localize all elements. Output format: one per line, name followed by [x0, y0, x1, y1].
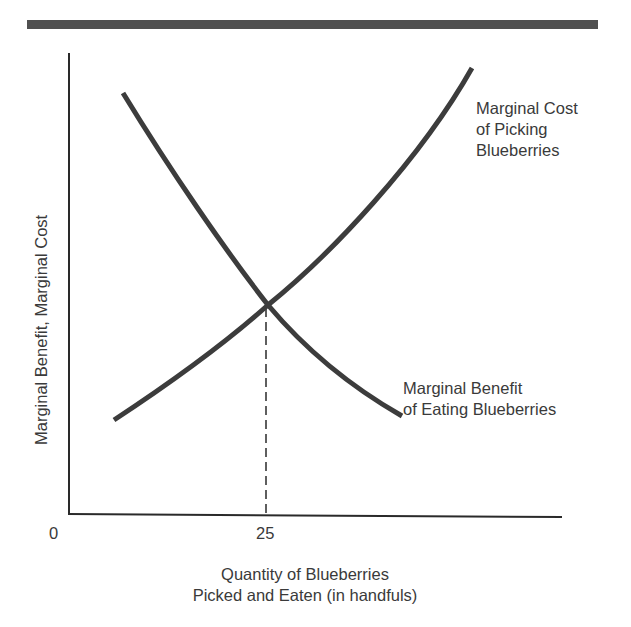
- marginal-cost-label: Marginal Cost of Picking Blueberries: [476, 98, 578, 161]
- marginal-benefit-curve: [123, 93, 402, 416]
- y-axis-label: Marginal Benefit, Marginal Cost: [32, 215, 51, 445]
- x-axis: [68, 514, 562, 517]
- x-tick-25: 25: [256, 524, 274, 543]
- x-axis-label-line1: Quantity of Blueberries: [150, 564, 460, 585]
- marginal-cost-curve: [114, 68, 472, 420]
- marginal-cost-label-line3: Blueberries: [476, 140, 578, 161]
- x-axis-label: Quantity of Blueberries Picked and Eaten…: [150, 564, 460, 606]
- plot-area: [0, 0, 631, 627]
- marginal-benefit-label: Marginal Benefit of Eating Blueberries: [403, 378, 556, 420]
- x-axis-label-line2: Picked and Eaten (in handfuls): [150, 585, 460, 606]
- x-tick-origin: 0: [49, 524, 58, 543]
- marginal-benefit-label-line1: Marginal Benefit: [403, 378, 556, 399]
- marginal-cost-label-line2: of Picking: [476, 119, 578, 140]
- marginal-cost-label-line1: Marginal Cost: [476, 98, 578, 119]
- marginal-benefit-label-line2: of Eating Blueberries: [403, 399, 556, 420]
